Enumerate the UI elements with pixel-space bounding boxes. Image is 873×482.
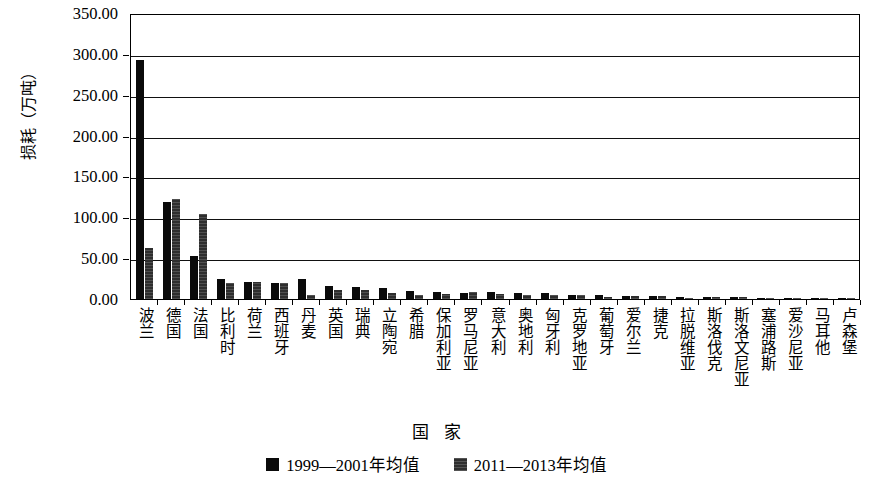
x-axis-tick-mark	[860, 300, 861, 305]
bar-group	[406, 15, 424, 299]
x-axis-category-label: 爱尔兰	[621, 307, 640, 355]
y-axis-tick-label: 0.00	[89, 292, 118, 308]
bar-group	[541, 15, 559, 299]
x-axis-tick-mark	[157, 300, 158, 305]
bar	[604, 297, 612, 299]
bar	[703, 297, 711, 299]
x-axis-tick-mark	[509, 300, 510, 305]
x-axis-category-label: 德国	[161, 307, 180, 339]
bar-group	[649, 15, 667, 299]
x-axis-tick-mark	[806, 300, 807, 305]
bar	[820, 298, 828, 300]
bar	[460, 293, 468, 299]
x-axis-category-label: 斯洛伐克	[702, 307, 721, 371]
bar	[226, 283, 234, 299]
y-axis-tick-mark	[123, 96, 129, 97]
bar-group	[217, 15, 235, 299]
x-axis-tick-mark	[617, 300, 618, 305]
bar	[388, 293, 396, 299]
x-axis-tick-mark	[590, 300, 591, 305]
bar	[577, 295, 585, 299]
x-axis-category-label: 捷克	[648, 307, 667, 339]
x-axis-category-label: 葡萄牙	[594, 307, 613, 355]
bar-group	[811, 15, 829, 299]
bar	[784, 298, 792, 300]
bar	[847, 298, 855, 300]
bar	[442, 294, 450, 299]
bar	[406, 291, 414, 299]
x-axis-title-part: 国	[412, 423, 430, 442]
x-axis-category-label: 丹麦	[296, 307, 315, 339]
y-axis-tick-mark	[123, 55, 129, 56]
bar-group	[703, 15, 721, 299]
legend-item[interactable]: 2011—2013年均值	[454, 452, 607, 476]
x-axis-title: 国家	[0, 418, 873, 443]
bar-group	[487, 15, 505, 299]
bar-group	[271, 15, 289, 299]
y-axis-tick-label: 100.00	[73, 210, 118, 226]
bar-group	[568, 15, 586, 299]
bar	[757, 298, 765, 300]
x-axis-category-label: 爱沙尼亚	[783, 307, 802, 371]
y-axis-tick-label: 50.00	[81, 251, 118, 267]
x-axis-category-label: 拉脱维亚	[675, 307, 694, 371]
y-axis-tick-label: 250.00	[73, 88, 118, 104]
x-axis-tick-marks	[130, 300, 860, 306]
bar	[325, 286, 333, 299]
x-axis-tick-mark	[536, 300, 537, 305]
bar	[496, 294, 504, 299]
bar-group	[838, 15, 856, 299]
x-axis-category-label: 马耳他	[810, 307, 829, 355]
bar	[136, 60, 144, 299]
x-axis-category-label: 保加利亚	[431, 307, 450, 371]
bar	[163, 202, 171, 299]
bar-chart: 损耗（万吨） 350.00300.00250.00200.00150.00100…	[0, 0, 873, 482]
x-axis-category-label: 波兰	[134, 307, 153, 339]
bar	[766, 298, 774, 300]
bar	[649, 296, 657, 299]
y-axis-tick-mark	[123, 218, 129, 219]
x-axis-title-part: 家	[444, 423, 462, 442]
plot-area	[130, 14, 860, 300]
y-axis-tick-label: 150.00	[73, 169, 118, 185]
x-axis-category-label: 奥地利	[513, 307, 532, 355]
x-axis-tick-mark	[698, 300, 699, 305]
legend-label: 2011—2013年均值	[474, 452, 607, 476]
x-axis-tick-mark	[833, 300, 834, 305]
x-axis-tick-mark	[319, 300, 320, 305]
bar	[244, 282, 252, 299]
x-axis-category-label: 立陶宛	[377, 307, 396, 355]
bar-group	[730, 15, 748, 299]
x-axis-tick-mark	[184, 300, 185, 305]
y-axis-tick-label: 300.00	[73, 47, 118, 63]
x-axis-tick-mark	[454, 300, 455, 305]
bar	[685, 298, 693, 300]
bar	[271, 283, 279, 299]
bar	[253, 282, 261, 299]
bar	[352, 287, 360, 299]
x-axis-category-label: 罗马尼亚	[458, 307, 477, 371]
x-axis-category-label: 比利时	[215, 307, 234, 355]
legend-item[interactable]: 1999—2001年均值	[266, 452, 420, 476]
bar	[523, 295, 531, 299]
y-axis-tick-label: 350.00	[73, 6, 118, 22]
bar	[280, 283, 288, 299]
x-axis-category-label: 瑞典	[350, 307, 369, 339]
x-axis-tick-mark	[644, 300, 645, 305]
bar-group	[595, 15, 613, 299]
y-axis-tick-mark	[123, 177, 129, 178]
bar	[658, 296, 666, 299]
x-axis-category-label: 法国	[188, 307, 207, 339]
y-axis-tick-label: 200.00	[73, 129, 118, 145]
bar-group	[622, 15, 640, 299]
bar	[541, 293, 549, 299]
bar	[469, 292, 477, 299]
x-axis-tick-mark	[427, 300, 428, 305]
bar	[199, 214, 207, 299]
bar	[145, 248, 153, 299]
x-axis-tick-mark	[265, 300, 266, 305]
bar	[793, 298, 801, 300]
x-axis-tick-mark	[481, 300, 482, 305]
bar-group	[433, 15, 451, 299]
x-axis-category-label: 克罗地亚	[567, 307, 586, 371]
